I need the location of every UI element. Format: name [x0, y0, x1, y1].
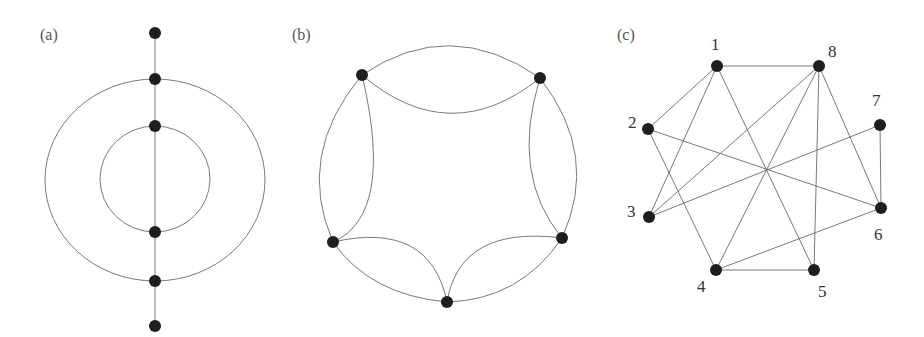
figure: (a) (b) (c) 12345678: [0, 0, 924, 337]
edge: [362, 46, 540, 78]
node-2: [642, 123, 654, 135]
panel-c: (c) 12345678: [617, 26, 887, 301]
edge-4-6: [716, 208, 881, 270]
node-label-4: 4: [697, 277, 706, 296]
edge: [529, 78, 562, 238]
node: [149, 73, 161, 85]
edge: [362, 75, 540, 113]
edge-5-8: [814, 66, 819, 270]
node-5: [808, 264, 820, 276]
node: [149, 27, 161, 39]
panel-c-label: (c): [617, 26, 635, 44]
edge: [333, 75, 373, 242]
panel-a: (a): [40, 26, 265, 332]
panel-b: (b): [292, 26, 577, 308]
node-label-5: 5: [818, 282, 827, 301]
edge-1-2: [648, 66, 717, 129]
node: [149, 320, 161, 332]
panel-a-label: (a): [40, 26, 58, 44]
node-3: [643, 211, 655, 223]
node-6: [875, 202, 887, 214]
edge: [333, 242, 447, 302]
panel-b-label: (b): [292, 26, 311, 44]
edge: [447, 238, 562, 302]
node: [149, 120, 161, 132]
edge: [319, 75, 362, 242]
edge-2-4: [648, 129, 716, 270]
node-label-3: 3: [627, 202, 636, 221]
node-label-2: 2: [628, 113, 637, 132]
node: [327, 236, 339, 248]
node-label-7: 7: [872, 91, 881, 110]
node-8: [813, 60, 825, 72]
node: [441, 296, 453, 308]
node-label-1: 1: [711, 35, 720, 54]
node: [556, 232, 568, 244]
node: [149, 226, 161, 238]
node: [534, 72, 546, 84]
node-label-6: 6: [874, 225, 883, 244]
node-7: [874, 119, 886, 131]
edge-3-7: [649, 125, 880, 217]
edge-3-8: [649, 66, 819, 217]
node-label-8: 8: [828, 42, 837, 61]
node-1: [711, 60, 723, 72]
edge: [447, 236, 562, 302]
edge-6-7: [880, 125, 881, 208]
node: [149, 275, 161, 287]
edge-2-6: [648, 129, 881, 208]
edge-6-8: [819, 66, 881, 208]
node: [356, 69, 368, 81]
edge: [333, 237, 447, 302]
node-4: [710, 264, 722, 276]
